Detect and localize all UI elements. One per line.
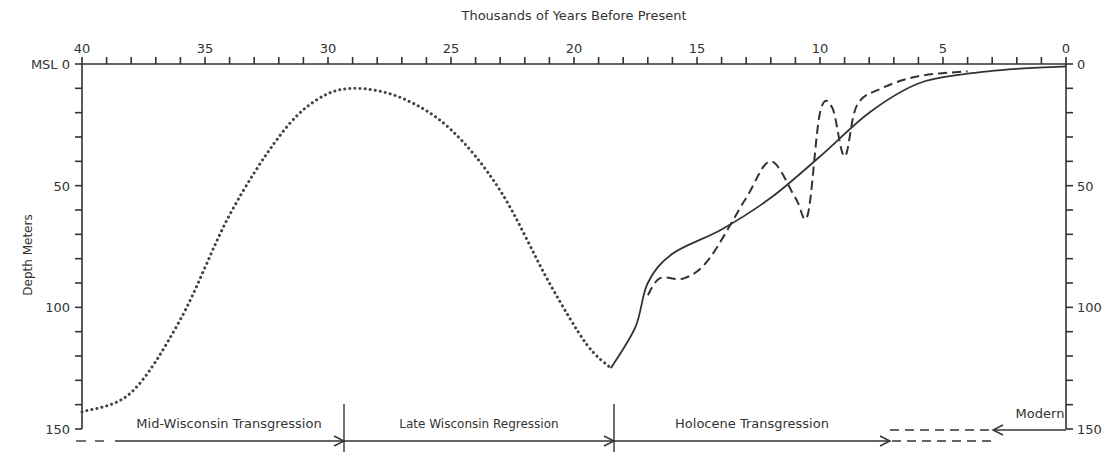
x-tick-label: 40 [74,41,91,56]
y-tick-labels: MSL 050100150050100150 [31,57,1102,437]
x-ticks [82,57,1066,64]
period-label: Modern [1016,406,1065,421]
x-tick-labels: 4035302520151050 [74,41,1070,56]
axes [75,57,1073,429]
y-tick-label-left: MSL 0 [31,57,70,72]
x-tick-label: 25 [443,41,460,56]
y-tick-label-right: 50 [1077,179,1094,194]
x-tick-label: 30 [320,41,337,56]
x-tick-label: 5 [939,41,947,56]
y-tick-label-left: 100 [45,300,70,315]
y-tick-label-right: 0 [1077,57,1085,72]
x-tick-label: 20 [566,41,583,56]
y-axis-title: Depth Meters [21,214,35,295]
y-tick-label-left: 150 [45,422,70,437]
period-label: Late Wisconsin Regression [399,417,558,431]
dotted-series [82,88,611,412]
x-tick-label: 0 [1062,41,1070,56]
x-tick-label: 10 [812,41,829,56]
x-tick-label: 35 [197,41,214,56]
y-tick-label-left: 50 [53,179,70,194]
period-label: Holocene Transgression [675,416,829,431]
dashed-series [648,71,968,295]
y-tick-label-right: 100 [1077,300,1102,315]
solid-series [611,66,1066,368]
y-tick-label-right: 150 [1077,422,1102,437]
y-ticks [75,64,1073,429]
sea-level-chart: Thousands of Years Before Present 403530… [0,0,1118,466]
top-axis-title: Thousands of Years Before Present [460,8,686,23]
period-label: Mid-Wisconsin Transgression [136,416,321,431]
x-tick-label: 15 [689,41,706,56]
